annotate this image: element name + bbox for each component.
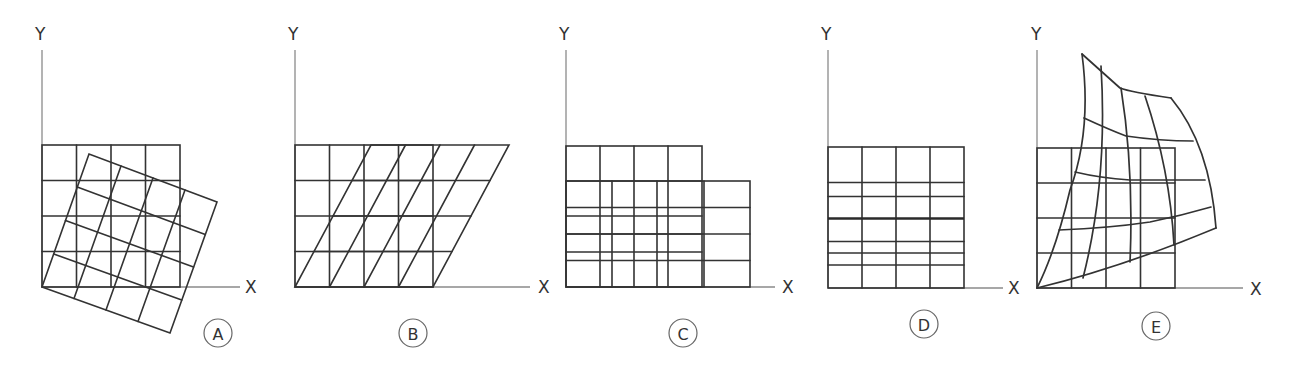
original-grid bbox=[1037, 148, 1175, 288]
panel-c-letter: C bbox=[677, 325, 688, 344]
original-grid bbox=[42, 145, 180, 287]
x-axis-label: X bbox=[538, 277, 550, 297]
y-axis-label: Y bbox=[558, 24, 570, 44]
panel-c-nonuniform-scale: Y X C bbox=[558, 24, 794, 347]
panel-d-vertical-scale: Y X D bbox=[820, 24, 1020, 338]
x-axis-label: X bbox=[1008, 278, 1020, 298]
x-axis-label: X bbox=[1250, 279, 1262, 299]
panel-e-letter: E bbox=[1151, 318, 1161, 337]
x-axis-label: X bbox=[245, 277, 257, 297]
y-axis-label: Y bbox=[820, 24, 832, 44]
panel-a-rotation: Y X A bbox=[34, 24, 257, 347]
y-axis-label: Y bbox=[1030, 24, 1042, 44]
y-axis-label: Y bbox=[34, 24, 46, 44]
transformations-figure: Y X A Y X bbox=[0, 0, 1297, 370]
panel-a-letter: A bbox=[213, 325, 224, 344]
panel-e-warp: Y X E bbox=[1030, 24, 1262, 340]
panel-b-shear: Y X B bbox=[287, 24, 550, 347]
panel-b-letter: B bbox=[408, 325, 419, 344]
scaled-grid bbox=[566, 181, 750, 287]
y-axis-label: Y bbox=[287, 24, 299, 44]
x-axis-label: X bbox=[782, 277, 794, 297]
panel-d-letter: D bbox=[918, 316, 930, 335]
